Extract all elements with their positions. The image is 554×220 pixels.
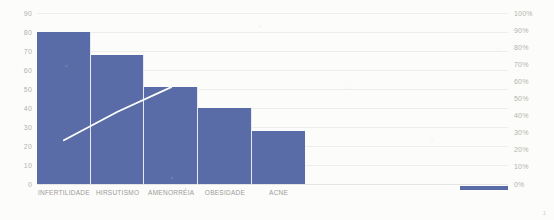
axis-baseline <box>37 184 508 185</box>
right-axis-tick: 50% <box>514 95 540 102</box>
bar-acne <box>252 131 306 184</box>
bars-layer <box>37 13 508 184</box>
legend-series-marker <box>460 186 508 190</box>
category-axis-labels: INFERTILIDADEHIRSUTISMOAMENORRÉIAOBESIDA… <box>37 190 306 204</box>
left-axis-tick: 50 <box>10 86 32 93</box>
right-axis-tick: 70% <box>514 61 540 68</box>
left-axis-tick: 20 <box>10 143 32 150</box>
right-axis-tick: 90% <box>514 27 540 34</box>
category-label-infertilidade: INFERTILIDADE <box>37 190 91 197</box>
right-axis-tick: 60% <box>514 78 540 85</box>
category-label-acne: ACNE <box>252 190 306 197</box>
bar-amenorréia <box>144 87 198 184</box>
right-axis-tick: 40% <box>514 112 540 119</box>
category-label-amenorréia: AMENORRÉIA <box>144 190 198 197</box>
left-axis-tick: 80 <box>10 29 32 36</box>
right-axis-tick: 0% <box>514 181 540 188</box>
right-axis-tick: 30% <box>514 129 540 136</box>
left-axis-tick: 30 <box>10 124 32 131</box>
left-axis-tick: 70 <box>10 48 32 55</box>
category-label-hirsutismo: HIRSUTISMO <box>91 190 145 197</box>
left-axis-tick: 0 <box>10 181 32 188</box>
left-axis-tick: 90 <box>10 10 32 17</box>
right-axis-tick: 10% <box>514 163 540 170</box>
plot-area <box>37 13 508 184</box>
left-axis-tick: 40 <box>10 105 32 112</box>
bar-obesidade <box>198 108 252 184</box>
pareto-chart: 0102030405060708090 0%10%20%30%40%50%60%… <box>0 0 554 220</box>
left-axis-tick: 10 <box>10 162 32 169</box>
bar-infertilidade <box>37 32 91 184</box>
right-axis-tick: 100% <box>514 10 540 17</box>
right-axis-tick: 80% <box>514 44 540 51</box>
page-number: 1 <box>543 210 546 216</box>
category-label-obesidade: OBESIDADE <box>198 190 252 197</box>
right-axis-tick: 20% <box>514 146 540 153</box>
bar-hirsutismo <box>91 55 145 184</box>
left-axis-tick: 60 <box>10 67 32 74</box>
